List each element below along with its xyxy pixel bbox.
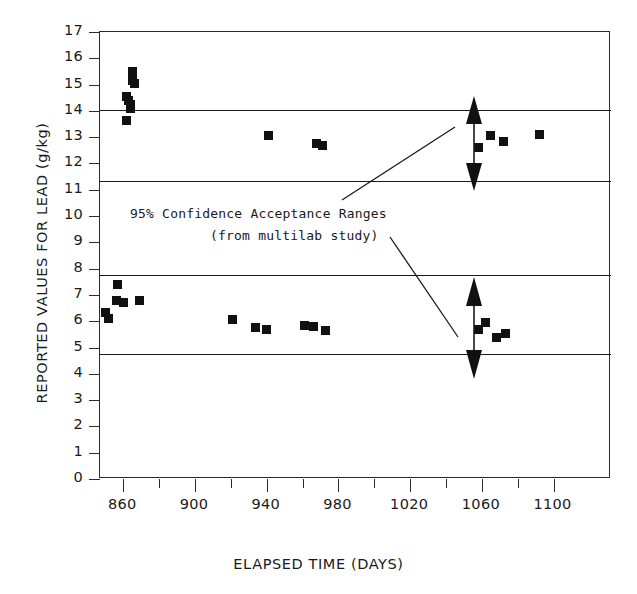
y-tick-label: 7 xyxy=(43,285,83,301)
y-tick-label: 3 xyxy=(43,390,83,406)
y-tick xyxy=(89,216,100,217)
lower-range-arrow xyxy=(466,277,482,379)
x-tick-major xyxy=(410,479,411,492)
y-tick-label: 16 xyxy=(43,48,83,64)
x-axis-title: ELAPSED TIME (DAYS) xyxy=(0,556,637,572)
y-tick-label: 11 xyxy=(43,180,83,196)
y-tick-label: 17 xyxy=(43,22,83,38)
x-tick-minor xyxy=(159,479,160,488)
y-tick xyxy=(89,295,100,296)
y-tick xyxy=(89,137,100,138)
y-tick xyxy=(89,111,100,112)
x-tick-major xyxy=(554,479,555,492)
y-tick xyxy=(89,321,100,322)
y-tick xyxy=(89,426,100,427)
x-tick-major xyxy=(267,479,268,492)
x-tick-minor xyxy=(518,479,519,488)
y-tick-label: 4 xyxy=(43,364,83,380)
y-tick-label: 12 xyxy=(43,153,83,169)
y-tick-label: 15 xyxy=(43,75,83,91)
x-tick-major xyxy=(123,479,124,492)
x-tick-label: 980 xyxy=(302,496,372,512)
y-tick xyxy=(89,242,100,243)
x-tick-major xyxy=(338,479,339,492)
y-tick-label: 5 xyxy=(43,338,83,354)
y-tick xyxy=(89,374,100,375)
y-tick xyxy=(89,32,100,33)
upper-range-arrow xyxy=(466,96,482,191)
x-tick-label: 1020 xyxy=(374,496,444,512)
annotation-line-1: 95% Confidence Acceptance Ranges xyxy=(130,206,387,221)
annotation-line-2: (from multilab study) xyxy=(210,228,379,243)
x-tick-minor xyxy=(303,479,304,488)
y-tick xyxy=(89,453,100,454)
x-tick-minor xyxy=(446,479,447,488)
y-tick xyxy=(89,190,100,191)
annotation-leader-lines xyxy=(100,32,611,479)
y-tick-label: 1 xyxy=(43,443,83,459)
chart-figure: REPORTED VALUES FOR LEAD (g/kg) ELAPSED … xyxy=(0,0,637,594)
y-tick-label: 0 xyxy=(43,469,83,485)
y-tick-label: 10 xyxy=(43,206,83,222)
x-tick-label: 1060 xyxy=(446,496,516,512)
y-tick xyxy=(89,58,100,59)
plot-area: 95% Confidence Acceptance Ranges (from m… xyxy=(99,31,610,478)
y-tick xyxy=(89,400,100,401)
y-tick xyxy=(89,269,100,270)
y-tick xyxy=(89,85,100,86)
x-tick-minor xyxy=(374,479,375,488)
y-tick-label: 8 xyxy=(43,259,83,275)
x-tick-label: 900 xyxy=(159,496,229,512)
x-tick-label: 1100 xyxy=(518,496,588,512)
x-tick-label: 860 xyxy=(87,496,157,512)
x-tick-label: 940 xyxy=(231,496,301,512)
x-tick-minor xyxy=(231,479,232,488)
x-tick-major xyxy=(195,479,196,492)
y-tick-label: 6 xyxy=(43,311,83,327)
x-tick-major xyxy=(482,479,483,492)
y-tick xyxy=(89,479,100,480)
y-tick-label: 14 xyxy=(43,101,83,117)
y-tick-label: 9 xyxy=(43,232,83,248)
y-tick-label: 2 xyxy=(43,416,83,432)
y-tick xyxy=(89,163,100,164)
y-tick xyxy=(89,348,100,349)
y-tick-label: 13 xyxy=(43,127,83,143)
